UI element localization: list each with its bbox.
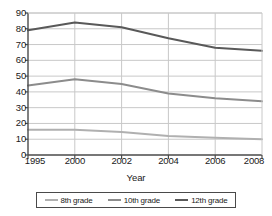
legend-item[interactable]: 8th grade: [45, 196, 93, 205]
chart-legend: 8th grade10th grade12th grade: [36, 192, 236, 208]
series-lines: [28, 22, 262, 139]
plot-svg: [0, 0, 272, 165]
legend-item[interactable]: 10th grade: [108, 196, 160, 205]
line-chart: 0102030405060708090 19952000200220042006…: [0, 0, 272, 216]
y-axis-tick-label: 40: [6, 87, 26, 97]
legend-line-swatch: [45, 199, 58, 201]
x-axis-tick-label: 2000: [65, 156, 85, 166]
x-axis-tick-labels: 199520002002200420062008: [0, 156, 272, 170]
legend-item[interactable]: 12th grade: [175, 196, 227, 205]
x-axis-title: Year: [0, 172, 272, 183]
legend-item-label: 12th grade: [191, 196, 227, 205]
y-axis-tick-label: 70: [6, 40, 26, 50]
x-axis-tick-label: 2006: [205, 156, 225, 166]
x-axis-tick-label: 2004: [158, 156, 178, 166]
legend-item-label: 8th grade: [61, 196, 93, 205]
legend-line-swatch: [108, 199, 121, 201]
y-axis-tick-labels: 0102030405060708090: [4, 0, 26, 165]
legend-item-label: 10th grade: [124, 196, 160, 205]
x-axis-tick-label: 2008: [244, 156, 264, 166]
y-axis-tick-label: 20: [6, 118, 26, 128]
y-axis-tick-label: 90: [6, 8, 26, 18]
legend-line-swatch: [175, 199, 188, 201]
y-axis-tick-label: 60: [6, 55, 26, 65]
y-axis-tick-label: 30: [6, 103, 26, 113]
plot-area: 0102030405060708090: [0, 0, 272, 165]
x-axis-tick-label: 1995: [25, 156, 45, 166]
y-axis-tick-label: 80: [6, 24, 26, 34]
y-axis-tick-label: 50: [6, 71, 26, 81]
y-axis-tick-label: 10: [6, 134, 26, 144]
x-axis-tick-label: 2002: [111, 156, 131, 166]
